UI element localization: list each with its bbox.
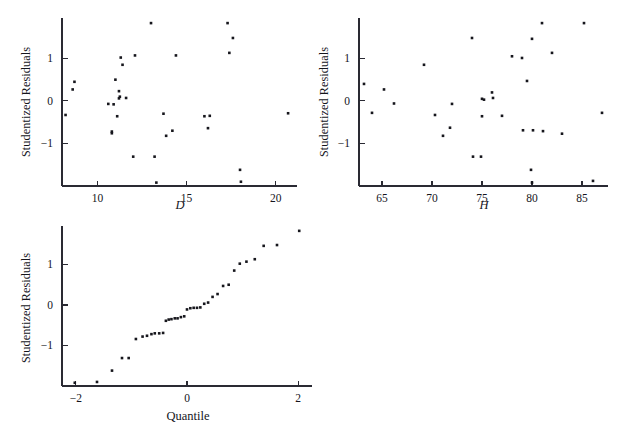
- h-plot-labels: H Studentized Residuals: [317, 47, 489, 212]
- data-point: [203, 302, 206, 305]
- data-point: [107, 103, 110, 106]
- data-point: [233, 269, 236, 272]
- qq_plot-ytick-label: 1: [47, 258, 53, 270]
- data-point: [146, 334, 149, 337]
- data-point: [207, 127, 210, 130]
- data-point: [165, 319, 168, 322]
- h-plot-svg: 6570758085−101 H Studentized Residuals: [311, 0, 621, 220]
- data-point: [112, 103, 115, 106]
- data-point: [171, 129, 174, 132]
- data-point: [521, 57, 524, 60]
- qq-plot-y-axis-title: Studentized Residuals: [19, 253, 33, 363]
- data-point: [150, 22, 153, 25]
- h-plot-ticks: 6570758085−101: [338, 52, 588, 204]
- data-point: [180, 316, 183, 319]
- h-plot-x-axis-title: H: [478, 198, 489, 212]
- data-point: [176, 317, 179, 320]
- data-point: [393, 102, 396, 105]
- data-point: [173, 317, 176, 320]
- data-point: [64, 114, 67, 117]
- data-point: [141, 335, 144, 338]
- data-point: [531, 181, 534, 184]
- d_plot-xtick-label: 20: [270, 192, 282, 204]
- data-point: [541, 22, 544, 25]
- data-point: [551, 52, 554, 55]
- data-point: [472, 155, 475, 158]
- qq_plot-ytick-label: −1: [41, 339, 53, 351]
- data-point: [491, 91, 494, 94]
- d-plot-x-axis-title: D: [174, 198, 184, 212]
- data-point: [73, 81, 76, 84]
- data-point: [363, 83, 366, 86]
- h-plot-y-axis-title: Studentized Residuals: [317, 47, 331, 157]
- data-point: [118, 90, 121, 93]
- data-point: [208, 115, 211, 118]
- data-point: [192, 307, 195, 310]
- data-point: [121, 357, 124, 360]
- data-point: [196, 307, 199, 310]
- h_plot-xtick-label: 70: [426, 192, 438, 204]
- data-point: [262, 245, 265, 248]
- panel-d-plot: 101520−101 D Studentized Residuals: [0, 0, 310, 220]
- data-point: [226, 22, 229, 25]
- h_plot-xtick-label: 85: [576, 192, 588, 204]
- h_plot-xtick-label: 65: [376, 192, 388, 204]
- data-point: [238, 262, 241, 265]
- d_plot-xtick-label: 10: [92, 192, 104, 204]
- panel-h-plot: 6570758085−101 H Studentized Residuals: [311, 0, 621, 220]
- h_plot-ytick-label: −1: [338, 137, 350, 149]
- data-point: [111, 132, 114, 135]
- data-point: [253, 258, 256, 261]
- d-plot-axes: [62, 18, 297, 186]
- data-point: [471, 37, 474, 40]
- data-point: [601, 112, 604, 115]
- data-point: [153, 155, 156, 158]
- data-point: [240, 180, 243, 183]
- data-point: [423, 63, 426, 66]
- data-point: [119, 56, 122, 59]
- data-point: [132, 155, 135, 158]
- h_plot-ytick-label: 1: [344, 52, 350, 64]
- data-point: [175, 54, 178, 57]
- data-point: [511, 55, 514, 58]
- qq-plot-points: [73, 230, 300, 385]
- data-point: [561, 132, 564, 135]
- data-point: [170, 318, 173, 321]
- data-point: [451, 103, 454, 106]
- data-point: [216, 293, 219, 296]
- data-point: [186, 308, 189, 311]
- data-point: [203, 115, 206, 118]
- data-point: [522, 129, 525, 132]
- data-point: [501, 115, 504, 118]
- qq-plot-labels: Quantile Studentized Residuals: [19, 253, 210, 423]
- data-point: [222, 285, 225, 288]
- d-plot-points: [64, 22, 289, 184]
- data-point: [492, 97, 495, 100]
- data-point: [481, 115, 484, 118]
- data-point: [116, 115, 119, 118]
- data-point: [183, 315, 186, 318]
- data-point: [155, 181, 158, 184]
- data-point: [592, 180, 595, 183]
- data-point: [207, 301, 210, 304]
- data-point: [96, 381, 99, 384]
- data-point: [232, 37, 235, 40]
- data-point: [480, 155, 483, 158]
- data-point: [227, 283, 230, 286]
- data-point: [199, 306, 202, 309]
- data-point: [211, 296, 214, 299]
- data-point: [189, 307, 192, 310]
- h-plot-axes: [359, 18, 608, 186]
- data-point: [73, 381, 76, 384]
- d_plot-ytick-label: −1: [41, 137, 53, 149]
- data-point: [150, 333, 153, 336]
- data-point: [158, 332, 161, 335]
- data-point: [526, 80, 529, 83]
- data-point: [121, 63, 124, 66]
- data-point: [165, 135, 168, 138]
- qq-plot-x-axis-title: Quantile: [166, 409, 209, 423]
- d-plot-labels: D Studentized Residuals: [19, 47, 185, 212]
- h_plot-ytick-label: 0: [344, 95, 350, 107]
- data-point: [434, 114, 437, 117]
- data-point: [449, 126, 452, 129]
